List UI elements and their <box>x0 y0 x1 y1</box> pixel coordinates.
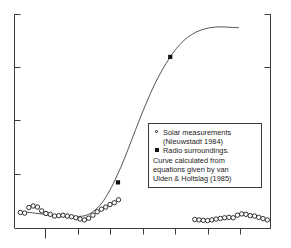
data-point-open-circle <box>61 213 65 217</box>
y-axis-ticks-left <box>15 15 21 175</box>
legend-note-line-1: Curve calculated from <box>153 156 257 165</box>
data-point-open-circle <box>74 216 78 220</box>
data-point-filled-square <box>168 55 172 59</box>
data-point-open-circle <box>82 218 86 222</box>
legend-note-line-2: equations given by van <box>153 165 257 174</box>
data-point-open-circle <box>240 212 244 216</box>
legend-entry-radio: Radio surroundings. <box>153 146 257 155</box>
chart-legend: Solar measurements (Nieuwstadt 1984) Rad… <box>148 123 262 188</box>
data-point-open-circle <box>48 212 52 216</box>
data-point-open-circle <box>227 215 231 219</box>
data-point-open-circle <box>235 213 239 217</box>
data-point-open-circle <box>65 214 69 218</box>
open-circle-icon <box>153 130 160 133</box>
data-point-open-circle <box>193 217 197 221</box>
data-point-open-circle <box>104 205 108 209</box>
data-point-open-circle <box>52 214 56 218</box>
data-point-open-circle <box>86 216 90 220</box>
data-point-open-circle <box>244 212 248 216</box>
data-point-open-circle <box>69 215 73 219</box>
y-axis-ticks-right <box>265 15 271 68</box>
data-point-open-circle <box>35 205 39 209</box>
legend-sublabel-solar: (Nieuwstadt 1984) <box>163 137 257 146</box>
data-point-open-circle <box>95 210 99 214</box>
data-point-open-circle <box>257 215 261 219</box>
data-point-open-circle <box>218 216 222 220</box>
data-point-open-circle <box>265 218 269 222</box>
data-point-open-circle <box>116 198 120 202</box>
data-point-open-circle <box>22 211 26 215</box>
data-point-open-circle <box>112 201 116 205</box>
data-point-open-circle <box>261 216 265 220</box>
data-point-open-circle <box>108 202 112 206</box>
solar-measurement-points <box>18 198 269 223</box>
data-point-open-circle <box>78 217 82 221</box>
data-point-open-circle <box>231 216 235 220</box>
x-axis-ticks <box>46 229 241 239</box>
data-point-open-circle <box>44 211 48 215</box>
data-point-open-circle <box>222 216 226 220</box>
data-point-filled-square <box>116 180 120 184</box>
data-point-open-circle <box>40 209 44 213</box>
data-point-open-circle <box>214 217 218 221</box>
filled-square-icon <box>153 148 160 152</box>
legend-entry-solar: Solar measurements <box>153 128 257 137</box>
legend-label-solar: Solar measurements <box>163 128 257 137</box>
data-point-open-circle <box>197 218 201 222</box>
data-point-open-circle <box>31 204 35 208</box>
data-point-open-circle <box>210 218 214 222</box>
legend-note-line-3: Ulden & Holtslag (1985) <box>153 174 257 183</box>
data-point-open-circle <box>18 210 22 214</box>
data-point-open-circle <box>252 214 256 218</box>
data-point-open-circle <box>91 213 95 217</box>
data-point-open-circle <box>201 218 205 222</box>
data-point-open-circle <box>205 218 209 222</box>
chart-figure: Solar measurements (Nieuwstadt 1984) Rad… <box>0 0 291 248</box>
data-point-open-circle <box>27 205 31 209</box>
legend-label-radio: Radio surroundings. <box>163 146 257 155</box>
data-point-open-circle <box>57 213 61 217</box>
data-point-open-circle <box>248 213 252 217</box>
axis-spines <box>15 14 272 229</box>
data-point-open-circle <box>99 207 103 211</box>
